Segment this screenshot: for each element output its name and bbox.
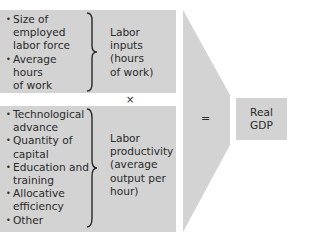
factor-line: hours [13,66,70,79]
factor-line: Other [13,214,89,227]
output-line: Real [250,106,273,119]
factor-line: efficiency [13,200,89,213]
labor-productivity-label: Labor productivity (average output per h… [110,132,173,198]
factor-line: advance [13,121,89,134]
factor-line: labor force [13,39,70,52]
label-line: of work) [110,66,153,79]
label-line: output per [110,172,173,185]
factor-line: Technological [13,108,89,121]
equals-sign: = [201,112,210,125]
label-line: Labor [110,26,153,39]
factor-item: Allocative efficiency [6,187,89,213]
factor-item: Education and training [6,161,89,187]
labor-inputs-factor-list: Size of employed labor force Average hou… [6,13,70,92]
factor-line: Quantity of [13,134,89,147]
multiply-sign: × [126,94,134,106]
labor-inputs-label: Labor inputs (hours of work) [110,26,153,79]
label-line: productivity [110,145,173,158]
labor-inputs-box: Size of employed labor force Average hou… [0,10,176,93]
factor-line: training [13,174,89,187]
factor-item: Average hours of work [6,53,70,93]
factor-line: Allocative [13,187,89,200]
factor-line: Size of [13,13,70,26]
factor-line: capital [13,148,89,161]
label-line: inputs [110,39,153,52]
labor-productivity-factor-list: Technological advance Quantity of capita… [6,108,89,227]
labor-productivity-box: Technological advance Quantity of capita… [0,106,176,232]
label-line: (hours [110,52,153,65]
factor-line: Average [13,53,70,66]
factor-line: Education and [13,161,89,174]
label-line: hour) [110,185,173,198]
right-brace-icon [86,108,98,228]
factor-line: employed [13,26,70,39]
factor-item: Size of employed labor force [6,13,70,53]
output-line: GDP [250,119,273,132]
label-line: (average [110,158,173,171]
factor-item: Quantity of capital [6,134,89,160]
real-gdp-box: Real GDP [236,98,287,140]
factor-item: Other [6,214,89,227]
label-line: Labor [110,132,173,145]
factor-line: of work [13,79,70,92]
factor-item: Technological advance [6,108,89,134]
right-brace-icon [86,12,98,92]
